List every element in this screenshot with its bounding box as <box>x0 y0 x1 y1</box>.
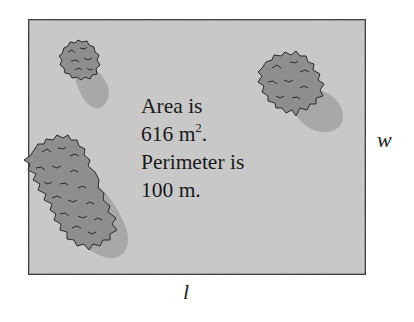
area-label-text: Area is <box>141 94 203 118</box>
length-label: l <box>183 279 189 305</box>
area-period: . <box>202 122 207 146</box>
perimeter-value: 100 m. <box>141 176 244 204</box>
area-number: 616 m <box>141 122 195 146</box>
width-label: w <box>377 127 392 153</box>
area-perimeter-text: Area is 616 m2. Perimeter is 100 m. <box>141 92 244 204</box>
perimeter-value-text: 100 m. <box>141 178 201 202</box>
area-value: 616 m2. <box>141 120 244 148</box>
area-label: Area is <box>141 92 244 120</box>
perimeter-label: Perimeter is <box>141 148 244 176</box>
perimeter-label-text: Perimeter is <box>141 150 244 174</box>
